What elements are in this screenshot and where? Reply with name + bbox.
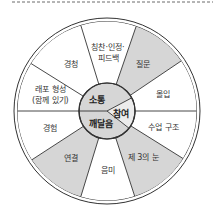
segment-label: 피드백	[98, 53, 119, 63]
segment-label: 제 3의 눈	[128, 152, 159, 162]
wheel-diagram: 칭찬·인정·피드백질문몰입수업 구조제 3의 눈음미연결경험래포 형성(함께 있…	[0, 0, 213, 223]
segment-label: 질문	[136, 60, 150, 69]
center-label-realization: 깨달음	[89, 118, 113, 129]
segment-label: 래포 형성	[35, 85, 66, 94]
segment-label: 연결	[64, 153, 78, 163]
center-label-participation: 참여	[113, 108, 129, 119]
segment-label: 음미	[101, 166, 115, 175]
center-label-communication: 소통	[89, 95, 105, 105]
segment-label: 몰입	[156, 90, 170, 99]
segment-label: 경청	[64, 59, 78, 69]
segment-label: (함께 있기)	[32, 95, 69, 105]
segment-label: 칭찬·인정·	[91, 42, 124, 52]
segment-label: 경험	[43, 123, 57, 133]
segment-label: 수업 구조	[148, 123, 179, 132]
